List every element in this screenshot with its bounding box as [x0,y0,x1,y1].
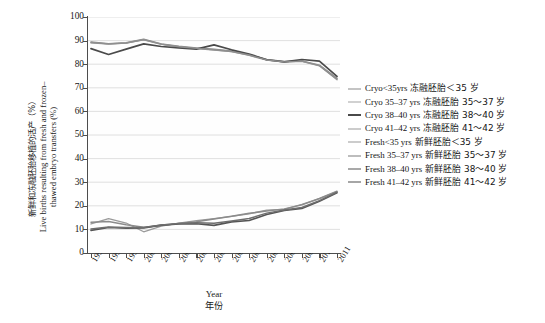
chart-figure: 新鲜和冻融胚胎移植的活产（%） Live births resulting fr… [0,0,545,323]
y-axis-tick-label: 10 [52,225,84,234]
legend-item[interactable]: Fresh 38–40 yrs新鲜胚胎 38～40 岁 [348,162,544,175]
y-axis-tick-label: 20 [52,201,84,210]
legend-label-en: Cryo 35–37 yrs [365,97,420,107]
y-axis-tick-mark [83,253,88,254]
legend-label-cn: 冻融胚胎 38～40 岁 [423,110,505,120]
legend-label-en: Fresh 41–42 yrs [365,177,422,187]
y-axis-tick-label: 90 [52,36,84,45]
y-axis-tick-label: 60 [52,107,84,116]
y-axis-tick-label: 80 [52,60,84,69]
y-axis-title-cn: 新鲜和冻融胚胎移植的活产（%） [27,32,38,282]
legend-item-label: Cryo 38–40 yrs冻融胚胎 38～40 岁 [365,110,505,121]
legend-line-icon [348,176,361,188]
legend-item[interactable]: Fresh 41–42 yrs新鲜胚胎 41～42 岁 [348,176,544,189]
legend-item[interactable]: Cryo<35yrs冻融胚胎＜35 岁 [348,82,544,95]
legend-item-label: Cryo 35–37 yrs冻融胚胎 35～37 岁 [365,97,505,108]
legend-label-en: Cryo 41–42 yrs [365,123,420,133]
legend-label-cn: 新鲜胚胎 35～37 岁 [425,150,507,160]
legend-line-icon [348,123,361,135]
x-axis-title: Year 年份 [88,288,340,312]
y-axis-tick-label: 100 [52,12,84,21]
series-lines [88,17,340,253]
x-axis-title-cn: 年份 [88,300,340,312]
legend-item-label: Fresh 35–37 yrs新鲜胚胎 35～37 岁 [365,150,507,161]
x-axis-title-en: Year [88,288,340,300]
legend-item[interactable]: Cryo 41–42 yrs冻融胚胎 41～42 岁 [348,122,544,135]
y-axis-tick-label: 70 [52,83,84,92]
legend-item-label: Fresh 38–40 yrs新鲜胚胎 38～40 岁 [365,164,507,175]
chart-legend: Cryo<35yrs冻融胚胎＜35 岁Cryo 35–37 yrs冻融胚胎 35… [348,82,544,189]
legend-label-cn: 冻融胚胎＜35 岁 [410,83,478,93]
legend-label-en: Cryo<35yrs [365,83,407,93]
legend-item-label: Fresh 41–42 yrs新鲜胚胎 41～42 岁 [365,177,507,188]
legend-line-icon [348,83,361,95]
y-axis-tick-label: 0 [52,248,84,257]
legend-item[interactable]: Fresh<35 yrs新鲜胚胎＜35 岁 [348,136,544,149]
y-axis-title-en-line1: Live births resulting from fresh and fro… [38,32,49,282]
legend-label-cn: 新鲜胚胎 38～40 岁 [425,164,507,174]
legend-item-label: Cryo 41–42 yrs冻融胚胎 41～42 岁 [365,123,505,134]
legend-label-en: Cryo 38–40 yrs [365,110,420,120]
legend-line-icon [348,163,361,175]
legend-label-en: Fresh 38–40 yrs [365,164,422,174]
legend-label-cn: 冻融胚胎 41～42 岁 [423,123,505,133]
y-axis-tick-label: 30 [52,178,84,187]
legend-item[interactable]: Cryo 38–40 yrs冻融胚胎 38～40 岁 [348,109,544,122]
legend-line-icon [348,96,361,108]
y-axis-tick-label: 40 [52,154,84,163]
plot-area [88,17,340,253]
legend-item-label: Fresh<35 yrs新鲜胚胎＜35 岁 [365,137,483,148]
legend-label-en: Fresh<35 yrs [365,137,412,147]
legend-item-label: Cryo<35yrs冻融胚胎＜35 岁 [365,83,479,94]
legend-item[interactable]: Cryo 35–37 yrs冻融胚胎 35～37 岁 [348,95,544,108]
legend-label-cn: 新鲜胚胎＜35 岁 [415,137,483,147]
legend-item[interactable]: Fresh 35–37 yrs新鲜胚胎 35～37 岁 [348,149,544,162]
legend-label-en: Fresh 35–37 yrs [365,150,422,160]
legend-line-icon [348,150,361,162]
legend-label-cn: 冻融胚胎 35～37 岁 [423,97,505,107]
legend-line-icon [348,136,361,148]
legend-line-icon [348,109,361,121]
y-axis-tick-label: 50 [52,130,84,139]
legend-label-cn: 新鲜胚胎 41～42 岁 [425,177,507,187]
